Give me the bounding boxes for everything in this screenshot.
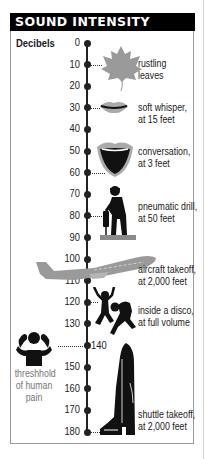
tick-mark-170 <box>84 407 91 414</box>
tick-label-30: 30 <box>55 101 81 113</box>
chart-header: SOUND INTENSITY <box>10 13 195 31</box>
closed-lips-icon <box>99 99 129 115</box>
tick-mark-130 <box>84 320 91 327</box>
label-drill: pneumatic drill,at 50 feet <box>138 201 197 225</box>
label-disco: inside a disco,at full volume <box>138 305 194 329</box>
jackhammer-worker-icon <box>100 185 138 243</box>
tick-mark-20 <box>84 83 91 90</box>
tick-label-150: 150 <box>55 360 81 372</box>
tick-mark-160 <box>84 385 91 392</box>
tick-label-20: 20 <box>55 79 81 91</box>
tick-mark-50 <box>84 148 91 155</box>
tick-label-10: 10 <box>55 58 81 70</box>
tick-label-120: 120 <box>55 295 81 307</box>
tick-mark-0 <box>84 40 91 47</box>
tick-mark-150 <box>84 364 91 371</box>
tick-mark-70 <box>84 191 91 198</box>
tick-label-180: 180 <box>55 425 81 437</box>
label-conversation: conversation,at 3 feet <box>138 146 190 170</box>
tick-mark-90 <box>84 234 91 241</box>
label-whisper: soft whisper,at 15 feet <box>138 102 187 126</box>
tick-label-50: 50 <box>55 144 81 156</box>
tick-label-0: 0 <box>55 36 81 48</box>
tick-label-80: 80 <box>55 209 81 221</box>
covering-ears-icon <box>14 330 54 366</box>
open-mouth-icon <box>96 141 134 179</box>
space-shuttle-icon <box>100 343 136 439</box>
tick-label-170: 170 <box>55 403 81 415</box>
tick-label-160: 160 <box>55 382 81 394</box>
tick-label-90: 90 <box>55 231 81 243</box>
leader-140 <box>58 346 85 347</box>
dancers-icon <box>92 287 138 337</box>
label-leaves: rustlingleaves <box>138 58 166 82</box>
tick-label-70: 70 <box>55 187 81 199</box>
tick-label-60: 60 <box>55 166 81 178</box>
y-axis-label: Decibels <box>16 37 55 49</box>
tick-label-40: 40 <box>55 122 81 134</box>
tick-mark-40 <box>84 126 91 133</box>
tick-label-130: 130 <box>55 317 81 329</box>
label-shuttle: shuttle takeoff,at 2,000 feet <box>138 409 195 433</box>
label-pain: threshholdof humanpain <box>15 368 54 404</box>
chart-title: SOUND INTENSITY <box>15 14 150 29</box>
label-aircraft: aircraft takeoff,at 2,000 feet <box>138 264 196 288</box>
page-edge-divider <box>203 0 204 459</box>
